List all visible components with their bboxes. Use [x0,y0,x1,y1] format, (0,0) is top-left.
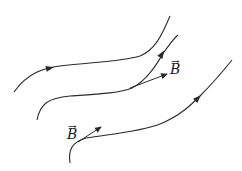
b-vector-1-label: → B [170,62,180,76]
vector-accent-icon: → [67,122,77,132]
vector-accent-icon: → [170,57,180,67]
direction-arrow-icon [45,64,54,72]
diagram-canvas [0,0,242,171]
field-line-3 [70,60,232,163]
b-vector-2-label: → B [67,127,77,141]
field-lines-diagram: → B → B [0,0,242,171]
field-line-1 [14,16,170,92]
b-vector-1-arrow-icon [130,74,167,88]
b-vector-2-arrow-icon [78,127,101,142]
